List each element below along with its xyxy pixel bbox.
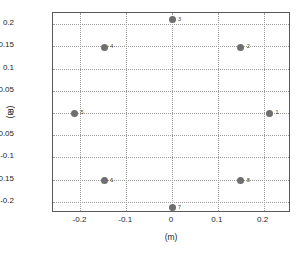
data-points-layer: 12345678 (53, 13, 289, 211)
data-point-label: 4 (110, 44, 113, 50)
y-tick-label: -0.05 (0, 130, 14, 138)
data-point-marker[interactable] (101, 44, 108, 51)
y-tick-label: 0 (10, 108, 14, 116)
data-point-marker[interactable] (266, 110, 273, 117)
data-point-marker[interactable] (71, 110, 78, 117)
y-tick-label: 0.1 (3, 64, 14, 72)
y-tick-label: 0.2 (3, 19, 14, 27)
y-tick-label: 0.05 (0, 86, 14, 94)
x-tick-label: 0.1 (211, 216, 222, 224)
plot-area: 12345678 (52, 12, 290, 212)
x-tick-label: -0.1 (118, 216, 132, 224)
data-point-marker[interactable] (237, 177, 244, 184)
data-point-marker[interactable] (169, 16, 176, 23)
y-tick-label: -0.2 (0, 197, 14, 205)
y-tick-label: 0.15 (0, 41, 14, 49)
x-tick-label: -0.2 (73, 216, 87, 224)
x-tick-label: 0.2 (257, 216, 268, 224)
x-axis-label: (m) (165, 232, 178, 242)
data-point-label: 5 (81, 110, 84, 116)
scatter-plot-figure: (m) 0.20.150.10.050-0.05-0.1-0.15-0.2 -0… (0, 0, 306, 254)
data-point-marker[interactable] (101, 177, 108, 184)
data-point-label: 2 (247, 44, 250, 50)
data-point-label: 7 (178, 205, 181, 211)
data-point-label: 1 (275, 110, 278, 116)
y-tick-label: -0.15 (0, 175, 14, 183)
x-tick-label: 0 (169, 216, 173, 224)
data-point-label: 3 (178, 17, 181, 23)
data-point-label: 8 (247, 178, 250, 184)
data-point-marker[interactable] (169, 204, 176, 211)
y-tick-label: -0.1 (0, 152, 14, 160)
data-point-marker[interactable] (237, 44, 244, 51)
data-point-label: 6 (110, 178, 113, 184)
